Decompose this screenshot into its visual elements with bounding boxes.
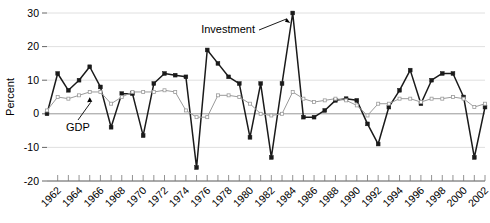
data-point-investment-1982 (269, 156, 273, 160)
data-point-gdp-1992 (377, 102, 380, 105)
ytick-label-10: 10 (27, 74, 39, 86)
data-point-gdp-1991 (366, 114, 369, 117)
ytick-label-0: 0 (33, 107, 39, 119)
data-point-investment-1970 (141, 134, 145, 138)
data-point-investment-1994 (398, 88, 402, 92)
data-point-gdp-1978 (227, 94, 230, 97)
data-point-gdp-1996 (419, 101, 422, 104)
data-point-gdp-2002 (484, 102, 487, 105)
ytick-label-20: 20 (27, 40, 39, 52)
chart-container: -20-100102030Percent19621964196619681970… (0, 0, 490, 223)
data-point-investment-2001 (472, 156, 476, 160)
ytick-label-30: 30 (27, 7, 39, 19)
data-point-investment-1966 (99, 85, 103, 89)
data-point-investment-1971 (152, 82, 156, 86)
line-chart: -20-100102030Percent19621964196619681970… (0, 0, 490, 223)
data-point-investment-1983 (280, 82, 284, 86)
data-point-investment-1986 (312, 115, 316, 119)
data-point-investment-1963 (66, 88, 70, 92)
data-point-investment-1999 (451, 72, 455, 76)
data-point-gdp-1990 (355, 104, 358, 107)
data-point-investment-1992 (376, 142, 380, 146)
data-point-gdp-1993 (387, 102, 390, 105)
data-point-gdp-1985 (302, 97, 305, 100)
ytick-label--20: -20 (24, 175, 39, 187)
data-point-gdp-1988 (334, 97, 337, 100)
data-point-investment-1993 (387, 105, 391, 109)
data-point-investment-1979 (237, 82, 241, 86)
data-point-gdp-1967 (110, 102, 113, 105)
data-point-gdp-1962 (56, 96, 59, 99)
data-point-investment-1973 (173, 73, 177, 77)
data-point-gdp-1997 (430, 97, 433, 100)
data-point-gdp-1968 (120, 96, 123, 99)
data-point-investment-1965 (88, 65, 92, 69)
data-point-gdp-1964 (78, 94, 81, 97)
data-point-investment-1990 (355, 98, 359, 102)
investment-series-label: Investment (201, 23, 255, 35)
data-point-investment-1987 (323, 109, 327, 113)
data-point-gdp-1987 (323, 99, 326, 102)
data-point-investment-1976 (205, 48, 209, 52)
data-point-investment-1985 (301, 115, 305, 119)
data-point-investment-1980 (248, 135, 252, 139)
data-point-investment-1998 (440, 72, 444, 76)
data-point-gdp-1982 (270, 114, 273, 117)
data-point-gdp-1961 (46, 109, 49, 112)
data-point-gdp-1999 (451, 96, 454, 99)
gdp-series-label: GDP (66, 121, 90, 133)
data-point-gdp-1983 (281, 112, 284, 115)
data-point-gdp-1974 (184, 109, 187, 112)
data-point-gdp-1972 (163, 89, 166, 92)
data-point-investment-1974 (184, 75, 188, 79)
data-point-gdp-1975 (195, 116, 198, 119)
data-point-investment-1972 (163, 72, 167, 76)
data-point-investment-2002 (483, 105, 487, 109)
data-point-gdp-1995 (409, 97, 412, 100)
data-point-gdp-1980 (248, 102, 251, 105)
data-point-investment-1964 (77, 78, 81, 82)
data-point-gdp-1998 (441, 97, 444, 100)
data-point-investment-1962 (56, 72, 60, 76)
ytick-label--10: -10 (24, 141, 39, 153)
data-point-gdp-1977 (216, 94, 219, 97)
data-point-investment-1995 (408, 68, 412, 72)
data-point-investment-1968 (120, 92, 124, 96)
data-point-gdp-1970 (142, 90, 145, 93)
data-point-investment-1977 (216, 62, 220, 66)
data-point-investment-1984 (291, 11, 295, 15)
data-point-gdp-1986 (313, 101, 316, 104)
data-point-investment-1997 (430, 78, 434, 82)
data-point-gdp-1969 (131, 90, 134, 93)
data-point-gdp-1989 (345, 99, 348, 102)
data-point-investment-1981 (259, 82, 263, 86)
y-axis-title: Percent (4, 78, 16, 116)
data-point-gdp-1979 (238, 96, 241, 99)
data-point-gdp-2000 (462, 97, 465, 100)
data-point-gdp-1994 (398, 97, 401, 100)
data-point-gdp-1965 (88, 90, 91, 93)
data-point-gdp-2001 (473, 106, 476, 109)
data-point-gdp-1966 (99, 90, 102, 93)
data-point-gdp-1973 (174, 90, 177, 93)
data-point-gdp-1981 (259, 112, 262, 115)
data-point-gdp-1971 (152, 90, 155, 93)
data-point-gdp-1963 (67, 97, 70, 100)
data-point-investment-1961 (45, 112, 49, 116)
data-point-investment-1967 (109, 125, 113, 129)
data-point-investment-1991 (366, 122, 370, 126)
data-point-investment-1975 (195, 166, 199, 170)
data-point-investment-1978 (227, 75, 231, 79)
data-point-gdp-1976 (206, 116, 209, 119)
data-point-gdp-1984 (291, 90, 294, 93)
